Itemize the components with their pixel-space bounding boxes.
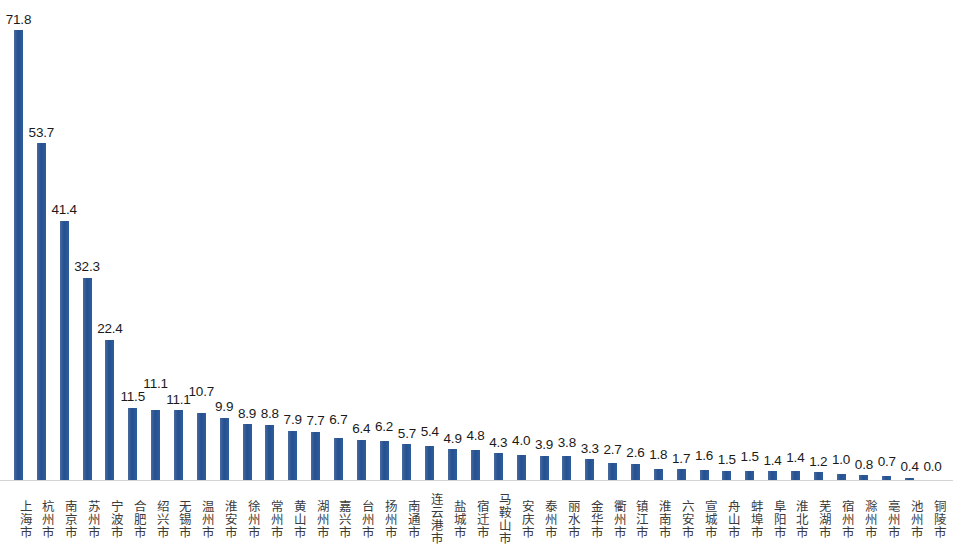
bar-value-label: 7.9 (284, 413, 302, 427)
bar-group[interactable]: 4.8 (464, 0, 487, 482)
bar[interactable] (151, 410, 160, 480)
bar[interactable] (517, 455, 526, 480)
bar[interactable] (814, 472, 823, 480)
bar[interactable] (311, 432, 320, 480)
bar[interactable] (83, 278, 92, 480)
bar[interactable] (608, 463, 617, 480)
bar[interactable] (174, 410, 183, 480)
bar-group[interactable]: 6.2 (373, 0, 396, 482)
bar-value-label: 11.1 (166, 393, 190, 407)
bar-value-label: 41.4 (51, 203, 76, 217)
bar-value-label: 0.4 (901, 460, 919, 474)
bar[interactable] (654, 469, 663, 480)
bar[interactable] (585, 459, 594, 480)
category-label: 苏州市 (76, 488, 99, 550)
bar[interactable] (700, 470, 709, 480)
bar-group[interactable]: 53.7 (30, 0, 53, 482)
bar[interactable] (380, 441, 389, 480)
bar-group[interactable]: 3.8 (555, 0, 578, 482)
bar[interactable] (471, 450, 480, 480)
bar-group[interactable]: 71.8 (7, 0, 30, 482)
bar-group[interactable]: 2.6 (624, 0, 647, 482)
bar-group[interactable]: 0.8 (852, 0, 875, 482)
bar-group[interactable]: 3.3 (578, 0, 601, 482)
bar-group[interactable]: 22.4 (98, 0, 121, 482)
bar-group[interactable]: 6.4 (350, 0, 373, 482)
bar-value-label: 3.3 (581, 442, 599, 456)
bar[interactable] (722, 471, 731, 480)
bar[interactable] (494, 453, 503, 480)
bar-group[interactable]: 4.3 (487, 0, 510, 482)
bar-group[interactable]: 1.4 (784, 0, 807, 482)
bar-group[interactable]: 4.9 (441, 0, 464, 482)
bar[interactable] (859, 475, 868, 480)
bar-group[interactable]: 1.0 (830, 0, 853, 482)
bar[interactable] (791, 471, 800, 480)
bar[interactable] (837, 474, 846, 480)
bar[interactable] (402, 444, 411, 480)
bar[interactable] (105, 340, 114, 480)
bar-group[interactable]: 1.6 (693, 0, 716, 482)
bar-group[interactable]: 2.7 (601, 0, 624, 482)
category-label: 六安市 (670, 488, 693, 550)
bar-group[interactable]: 9.9 (213, 0, 236, 482)
category-label: 池州市 (898, 488, 921, 550)
bar-group[interactable]: 1.5 (715, 0, 738, 482)
bar-group[interactable]: 1.5 (738, 0, 761, 482)
bar-group[interactable]: 5.4 (418, 0, 441, 482)
bar[interactable] (425, 446, 434, 480)
bar-group[interactable]: 1.2 (807, 0, 830, 482)
bar[interactable] (631, 464, 640, 480)
bar-group[interactable]: 4.0 (510, 0, 533, 482)
bar[interactable] (60, 221, 69, 480)
bar-group[interactable]: 11.1 (167, 0, 190, 482)
bar[interactable] (14, 30, 23, 480)
bar-group[interactable]: 11.5 (121, 0, 144, 482)
bar-group[interactable]: 1.8 (647, 0, 670, 482)
category-label-text: 杭州市 (40, 488, 53, 550)
bar-group[interactable]: 7.9 (281, 0, 304, 482)
bar-value-label: 1.5 (718, 453, 736, 467)
category-label-text: 南通市 (406, 488, 419, 550)
bar[interactable] (905, 478, 914, 481)
bar-value-label: 6.2 (375, 420, 393, 434)
bar[interactable] (128, 408, 137, 480)
category-label-text: 池州市 (908, 488, 921, 550)
bar-group[interactable]: 7.7 (304, 0, 327, 482)
bar[interactable] (37, 143, 46, 480)
bar[interactable] (288, 431, 297, 481)
bar[interactable] (677, 469, 686, 480)
category-label: 徐州市 (236, 488, 259, 550)
bar-group[interactable]: 1.4 (761, 0, 784, 482)
bar-group[interactable]: 0.0 (921, 0, 944, 482)
bar-group[interactable]: 41.4 (53, 0, 76, 482)
bar-group[interactable]: 8.9 (236, 0, 259, 482)
bar[interactable] (220, 418, 229, 480)
bar[interactable] (768, 471, 777, 480)
bar[interactable] (243, 424, 252, 480)
category-label: 上海市 (7, 488, 30, 550)
bar-group[interactable]: 10.7 (190, 0, 213, 482)
bar-group[interactable]: 11.1 (144, 0, 167, 482)
bar-group[interactable]: 3.9 (533, 0, 556, 482)
category-label: 南通市 (395, 488, 418, 550)
category-label-text: 镇江市 (634, 488, 647, 550)
bar-group[interactable]: 6.7 (327, 0, 350, 482)
bar-group[interactable]: 32.3 (76, 0, 99, 482)
bar[interactable] (882, 476, 891, 480)
category-label: 无锡市 (167, 488, 190, 550)
bar-group[interactable]: 0.4 (898, 0, 921, 482)
bar-group[interactable]: 5.7 (395, 0, 418, 482)
bar[interactable] (745, 471, 754, 480)
category-label: 盐城市 (441, 488, 464, 550)
bar[interactable] (357, 440, 366, 480)
bar[interactable] (197, 413, 206, 480)
bar-group[interactable]: 0.7 (875, 0, 898, 482)
bar[interactable] (562, 456, 571, 480)
bar-group[interactable]: 8.8 (258, 0, 281, 482)
bar-group[interactable]: 1.7 (670, 0, 693, 482)
bar[interactable] (448, 449, 457, 480)
bar[interactable] (265, 425, 274, 480)
bar[interactable] (540, 456, 549, 480)
bar[interactable] (334, 438, 343, 480)
